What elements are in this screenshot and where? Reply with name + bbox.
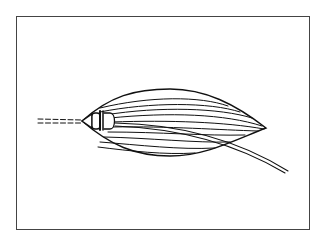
capsule-node — [82, 111, 115, 130]
fiber-bundle-diagram — [0, 0, 327, 242]
dashed-lead — [38, 119, 82, 123]
